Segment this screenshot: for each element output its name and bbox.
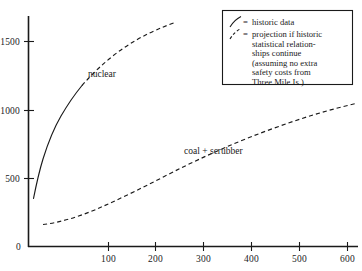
series-coal-scrubber — [43, 104, 356, 225]
chart-canvas: 1500 1000 500 0 100 200 300 400 500 600 — [0, 0, 362, 271]
legend: = historic data = projection if historic… — [223, 11, 353, 87]
x-tick-label-300: 300 — [196, 254, 211, 264]
series-nuclear — [34, 23, 176, 199]
legend-label-historic-data: historic data — [252, 17, 294, 27]
coal-scrubber-projection-path — [43, 104, 356, 225]
x-tick-label-500: 500 — [292, 254, 307, 264]
x-axis-ticks: 100 200 300 400 500 600 — [101, 242, 355, 264]
series-label-coal-scrubber: coal + scrubber — [184, 146, 243, 156]
legend-equals-1: = — [243, 17, 248, 27]
series-annotations: nuclear coal + scrubber — [88, 69, 243, 156]
legend-equals-2: = — [243, 29, 248, 39]
legend-label-projection-line-2: statistical relation- — [252, 39, 316, 49]
legend-label-projection-line-5: safety costs from — [252, 67, 311, 77]
legend-label-projection-line-1: projection if historic — [252, 29, 322, 39]
series-label-nuclear: nuclear — [88, 69, 117, 79]
y-tick-label-500: 500 — [5, 174, 20, 184]
x-tick-label-100: 100 — [101, 254, 116, 264]
legend-label-projection-line-4: (assuming no extra — [252, 58, 318, 68]
legend-label-projection-line-6: Three Mile Is.) — [252, 77, 304, 87]
chart-figure: 1500 1000 500 0 100 200 300 400 500 600 — [0, 0, 362, 271]
y-tick-label-1500: 1500 — [0, 37, 20, 47]
x-tick-label-600: 600 — [340, 254, 355, 264]
x-tick-label-200: 200 — [148, 254, 163, 264]
x-tick-label-400: 400 — [244, 254, 259, 264]
y-tick-label-1000: 1000 — [0, 106, 20, 116]
nuclear-historic-path — [34, 86, 83, 199]
legend-label-projection-line-3: ships continue — [252, 48, 302, 58]
y-tick-label-0: 0 — [16, 242, 21, 252]
